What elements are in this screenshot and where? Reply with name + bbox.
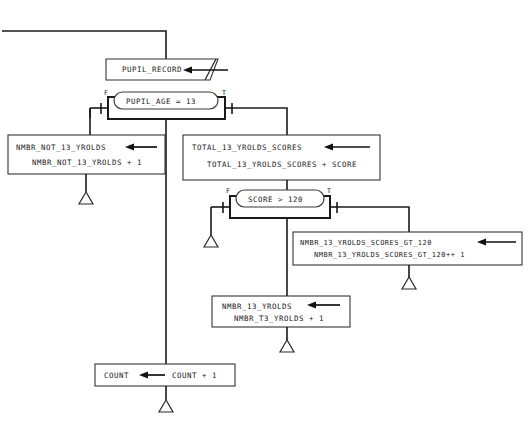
terminator-score-false [204, 235, 218, 247]
node-process-not13[interactable]: NMBR_NOT_13_YROLDS NMBR_NOT_13_YROLDS + … [8, 135, 165, 174]
decision-age-false-label: F [104, 89, 108, 97]
process-gt120-line2: NMBR_13_YROLDS_SCORES_GT_120++ 1 [314, 251, 465, 259]
process-total-line1: TOTAL_13_YROLDS_SCORES [192, 143, 302, 152]
process-total-line2: TOTAL_13_YROLDS_SCORES + SCORE [207, 160, 357, 169]
terminator-gt120 [402, 277, 416, 289]
process-count-line2: COUNT + 1 [172, 371, 217, 380]
node-process-gt120[interactable]: NMBR_13_YROLDS_SCORES_GT_120 NMBR_13_YRO… [293, 232, 522, 265]
node-decision-score[interactable]: SCORE > 120 F T [226, 187, 331, 218]
flowchart-canvas: PUPIL_RECORD PUPIL_AGE = 13 F T [0, 0, 531, 439]
terminator-not13 [79, 192, 93, 204]
process-not13-line1: NMBR_NOT_13_YROLDS [16, 143, 106, 152]
terminator-13yrolds [280, 340, 294, 352]
process-not13-line2: NMBR_NOT_13_YROLDS + 1 [32, 158, 142, 167]
decision-age-true-label: T [222, 89, 226, 97]
input-record-label: PUPIL_RECORD [122, 65, 182, 74]
node-process-13yrolds[interactable]: NMBR_13_YROLDS NMBR_T3_YROLDS + 1 [212, 296, 350, 327]
node-decision-age[interactable]: PUPIL_AGE = 13 F T [104, 89, 226, 119]
process-13yrolds-line1: NMBR_13_YROLDS [222, 302, 292, 311]
decision-score-true-label: T [327, 187, 331, 195]
decision-score-false-label: F [226, 187, 230, 195]
decision-age-condition: PUPIL_AGE = 13 [126, 97, 196, 106]
terminator-count [159, 400, 173, 412]
decision-score-condition: SCORE > 120 [248, 195, 303, 204]
node-process-total[interactable]: TOTAL_13_YROLDS_SCORES TOTAL_13_YROLDS_S… [183, 135, 380, 180]
process-gt120-line1: NMBR_13_YROLDS_SCORES_GT_120 [300, 239, 432, 247]
process-13yrolds-line2: NMBR_T3_YROLDS + 1 [234, 314, 324, 323]
process-count-line1: COUNT [104, 371, 129, 380]
node-process-count[interactable]: COUNT COUNT + 1 [95, 364, 235, 386]
